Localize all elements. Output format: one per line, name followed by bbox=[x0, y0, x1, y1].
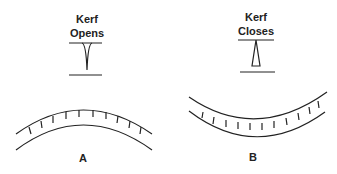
panel-b-concave-board bbox=[189, 92, 327, 137]
kerf-closes-symbol bbox=[238, 40, 275, 72]
panel-a-convex-board bbox=[16, 110, 152, 150]
kerf-opens-symbol bbox=[69, 43, 102, 75]
panel-a-kerf-ticks bbox=[29, 110, 141, 134]
kerf-diagram bbox=[0, 0, 337, 174]
